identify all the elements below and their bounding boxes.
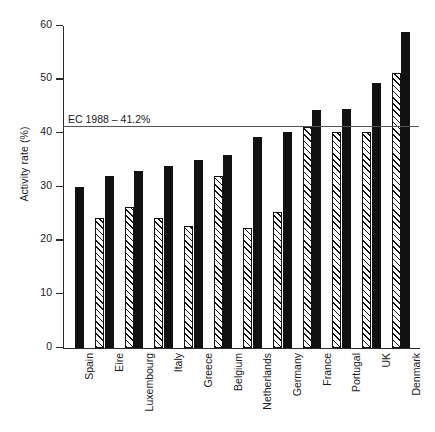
bar-solid-spain [75, 187, 84, 348]
bar-hatched-portugal [332, 132, 341, 348]
bar-solid-germany [283, 132, 292, 348]
bar-solid-italy [164, 166, 173, 348]
bar-hatched-luxembourg [125, 207, 134, 348]
x-axis-line [63, 348, 420, 349]
y-tick-10: 10 [56, 293, 63, 294]
x-axis-label-spain: Spain [83, 353, 95, 380]
chart-figure: Activity rate (%) 0102030405060 EC 1988 … [0, 0, 435, 432]
ec-average-line [63, 126, 419, 127]
x-axis-label-netherlands: Netherlands [261, 353, 273, 410]
bar-hatched-denmark [392, 73, 401, 348]
x-axis-label-france: France [321, 353, 333, 386]
x-axis-label-eire: Eire [113, 353, 125, 372]
x-axis-label-uk: UK [380, 353, 392, 368]
y-tick-label: 20 [22, 232, 52, 244]
bar-hatched-netherlands [243, 228, 252, 348]
y-tick-label: 30 [22, 179, 52, 191]
bar-solid-portugal [342, 109, 351, 348]
bar-solid-eire [105, 176, 114, 348]
x-axis-label-greece: Greece [202, 353, 214, 387]
bar-solid-france [312, 110, 321, 348]
x-axis-label-germany: Germany [291, 353, 303, 396]
y-tick-label: 0 [22, 340, 52, 352]
bar-solid-denmark [401, 32, 410, 348]
y-tick-label: 50 [22, 71, 52, 83]
bar-solid-luxembourg [134, 171, 143, 348]
bar-solid-uk [372, 83, 381, 348]
y-axis-title: Activity rate (%) [18, 104, 30, 224]
x-axis-label-belgium: Belgium [232, 353, 244, 391]
y-tick-label: 40 [22, 125, 52, 137]
ec-average-label: EC 1988 – 41.2% [68, 113, 150, 125]
y-tick-50: 50 [56, 78, 63, 79]
bar-solid-netherlands [253, 137, 262, 348]
y-tick-label: 60 [22, 18, 52, 30]
bar-solid-greece [194, 160, 203, 348]
y-tick-20: 20 [56, 239, 63, 240]
y-tick-30: 30 [56, 186, 63, 187]
x-axis-label-portugal: Portugal [350, 353, 362, 392]
x-axis-label-italy: Italy [172, 353, 184, 372]
bar-hatched-greece [184, 226, 193, 348]
y-tick-0: 0 [56, 347, 63, 348]
bar-hatched-france [303, 127, 312, 348]
bar-hatched-belgium [214, 176, 223, 348]
x-axis-label-denmark: Denmark [410, 353, 422, 396]
y-tick-60: 60 [56, 25, 63, 26]
bar-hatched-italy [154, 218, 163, 348]
y-tick-40: 40 [56, 132, 63, 133]
y-tick-label: 10 [22, 286, 52, 298]
bar-hatched-germany [273, 212, 282, 348]
bar-hatched-eire [95, 218, 104, 348]
bar-solid-belgium [223, 155, 232, 348]
bar-hatched-uk [362, 132, 371, 348]
plot-area: 0102030405060 EC 1988 – 41.2% [63, 26, 419, 348]
x-axis-label-luxembourg: Luxembourg [143, 353, 155, 411]
